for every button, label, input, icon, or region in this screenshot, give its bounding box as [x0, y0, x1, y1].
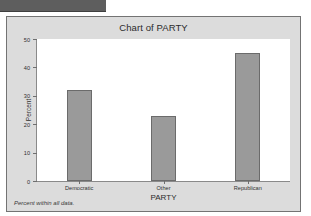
- y-axis-tick: 20: [33, 124, 37, 125]
- x-axis-tick-label: Other: [157, 185, 171, 191]
- y-axis-tick-label: 50: [24, 37, 30, 43]
- plot-area: Percent 01020304050 DemocraticOtherRepub…: [36, 39, 290, 182]
- y-axis-tick-label: 40: [24, 65, 30, 71]
- y-axis-tick-label: 0: [27, 179, 30, 185]
- y-axis-title: Percent: [25, 99, 32, 121]
- x-axis-tick: [79, 181, 80, 184]
- y-axis-tick: 0: [33, 181, 37, 182]
- y-axis-tick-label: 30: [24, 93, 30, 99]
- x-axis-tick: [248, 181, 249, 184]
- x-axis-tick: [164, 181, 165, 184]
- chart-panel: Chart of PARTY Percent 01020304050 Democ…: [6, 16, 301, 212]
- chart-footnote: Percent within all data.: [14, 200, 74, 206]
- x-axis-tick-label: Republican: [234, 185, 262, 191]
- y-axis-tick: 40: [33, 67, 37, 68]
- bar-other[interactable]: [151, 116, 176, 181]
- bar-republican[interactable]: [235, 53, 260, 181]
- window-titlebar-strip: [0, 0, 106, 12]
- y-axis-tick: 10: [33, 153, 37, 154]
- y-axis-tick: 30: [33, 96, 37, 97]
- bar-democratic[interactable]: [67, 90, 92, 181]
- y-axis-tick: 50: [33, 39, 37, 40]
- chart-title: Chart of PARTY: [7, 22, 300, 33]
- x-axis-title: PARTY: [37, 193, 290, 202]
- y-axis-tick-label: 20: [24, 122, 30, 128]
- x-axis-tick-label: Democratic: [65, 185, 93, 191]
- y-axis-tick-label: 10: [24, 150, 30, 156]
